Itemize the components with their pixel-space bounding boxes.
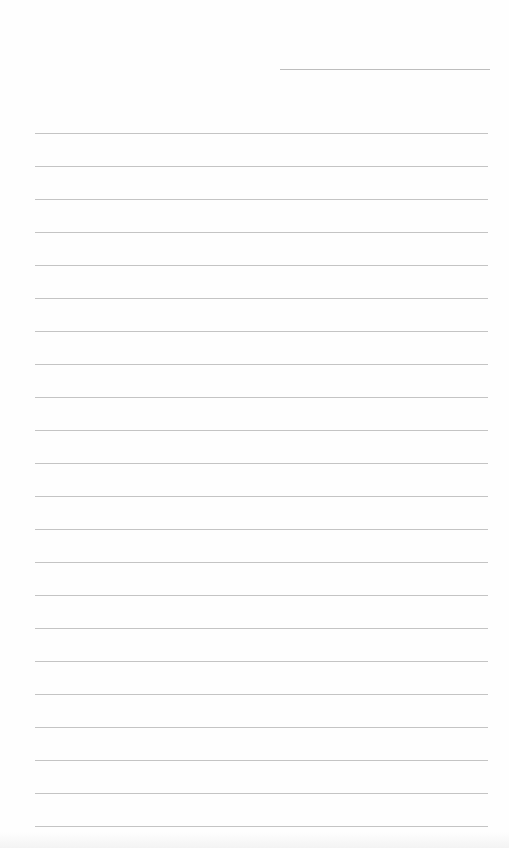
ruled-line	[35, 727, 488, 728]
ruled-line	[35, 562, 488, 563]
ruled-line	[35, 463, 488, 464]
page-bottom-shadow	[0, 832, 509, 848]
ruled-line	[35, 529, 488, 530]
ruled-line	[35, 496, 488, 497]
ruled-line	[35, 694, 488, 695]
ruled-line	[35, 232, 488, 233]
ruled-line	[35, 595, 488, 596]
ruled-line	[35, 826, 488, 827]
date-line	[280, 69, 490, 70]
ruled-line	[35, 331, 488, 332]
ruled-line	[35, 430, 488, 431]
ruled-line	[35, 265, 488, 266]
ruled-line	[35, 166, 488, 167]
ruled-line	[35, 760, 488, 761]
ruled-line	[35, 298, 488, 299]
lined-paper-page	[0, 0, 509, 848]
ruled-line	[35, 199, 488, 200]
ruled-line	[35, 628, 488, 629]
ruled-line	[35, 364, 488, 365]
ruled-line	[35, 397, 488, 398]
ruled-line	[35, 133, 488, 134]
ruled-line	[35, 793, 488, 794]
ruled-line	[35, 661, 488, 662]
